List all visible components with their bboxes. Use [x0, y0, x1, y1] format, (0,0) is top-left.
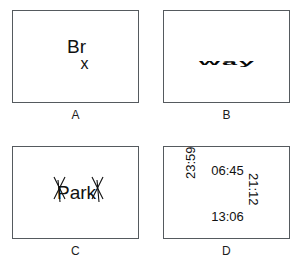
panel-b-frame: way [163, 10, 290, 103]
panel-b-stimulus: way [164, 11, 290, 103]
panel-b-label: B [151, 108, 302, 122]
panel-a: Br x A [0, 0, 151, 136]
panel-d-time-right: 21:12 [247, 173, 260, 206]
panel-d-label: D [151, 244, 302, 258]
panel-d-time-left: 23:59 [184, 146, 197, 179]
panel-a-frame: Br x [12, 10, 139, 103]
figure-canvas: Br x A way B Park [0, 0, 302, 272]
panel-c-struck-word: Park [13, 183, 139, 202]
panel-a-text-line-bottom: x [21, 56, 139, 72]
panel-a-label: A [0, 108, 151, 122]
panel-d-frame: 06:45 21:12 13:06 23:59 [163, 146, 290, 239]
panel-d-time-bottom: 13:06 [164, 210, 290, 223]
panel-a-stimulus: Br x [13, 11, 139, 103]
panel-d-stimulus: 06:45 21:12 13:06 23:59 [164, 147, 290, 239]
panel-c-label: C [0, 244, 151, 258]
panel-b: way B [151, 0, 302, 136]
panel-a-text-line-top: Br [13, 37, 139, 56]
panel-c-stimulus: Park [13, 147, 139, 239]
panel-b-squashed-word: way [164, 58, 290, 66]
panel-c-frame: Park [12, 146, 139, 239]
panel-d: 06:45 21:12 13:06 23:59 D [151, 136, 302, 272]
panel-c: Park C [0, 136, 151, 272]
